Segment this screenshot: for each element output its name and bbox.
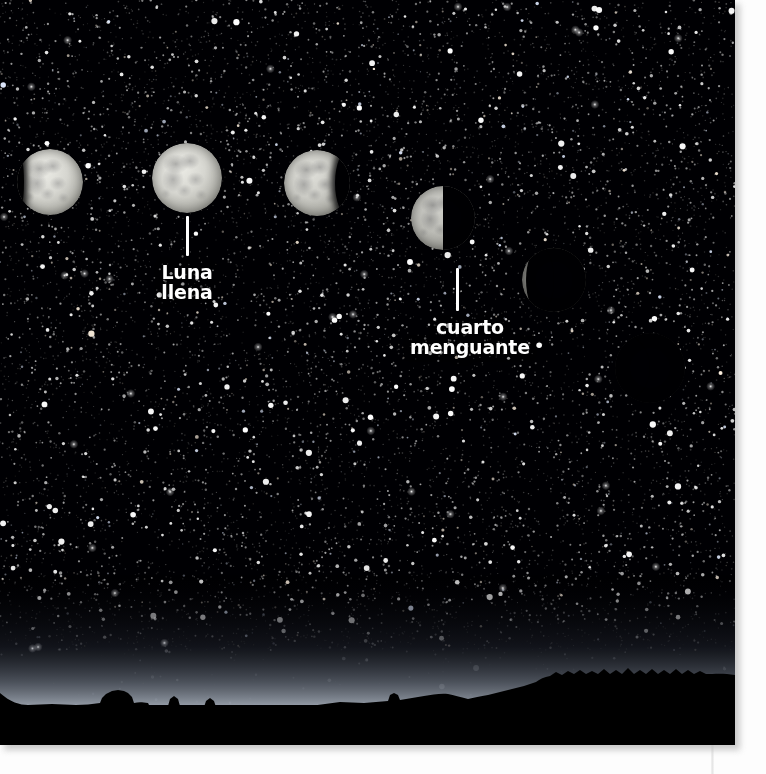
leader-line-cuarto-menguante	[456, 268, 459, 311]
moon-new	[615, 333, 685, 403]
moon-limb-glow	[17, 149, 83, 215]
label-line-2: llena	[77, 282, 297, 302]
moon-limb-glow	[522, 248, 586, 312]
moon-last-quarter	[411, 186, 475, 250]
label-line-1: cuarto	[360, 317, 580, 337]
label-cuarto-menguante: cuartomenguante	[360, 317, 580, 357]
horizon-landscape-silhouette	[0, 575, 735, 745]
moon-waning-crescent	[522, 248, 586, 312]
label-line-2: menguante	[360, 337, 580, 357]
moon-full	[152, 143, 222, 213]
moon-limb-glow	[152, 143, 222, 213]
label-luna-llena: Lunallena	[77, 262, 297, 302]
moon-limb-glow	[284, 150, 350, 216]
moon-waning-gibbous	[284, 150, 350, 216]
moon-limb-glow	[615, 333, 685, 403]
moon-limb-glow	[411, 186, 475, 250]
moon-phases-photo: Lunallenacuartomenguante	[0, 0, 735, 745]
moon-waxing-gibbous-1	[17, 149, 83, 215]
leader-line-luna-llena	[186, 216, 189, 256]
label-line-1: Luna	[77, 262, 297, 282]
page-canvas: Lunallenacuartomenguante	[0, 0, 766, 774]
